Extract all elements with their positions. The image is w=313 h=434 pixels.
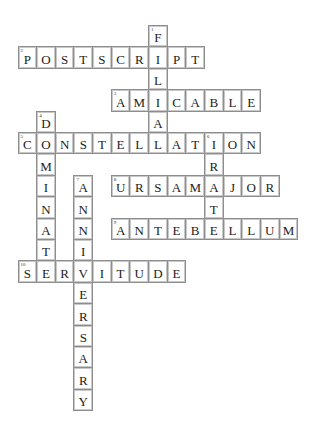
grid-cell[interactable]: 5C [18, 132, 38, 154]
grid-cell[interactable]: O [36, 132, 56, 154]
grid-cell[interactable]: L [129, 132, 149, 154]
grid-cell[interactable]: N [73, 196, 93, 218]
grid-cell[interactable]: O [223, 132, 243, 154]
grid-cell[interactable]: P [167, 46, 187, 68]
grid-cell[interactable]: 7A [73, 175, 93, 197]
grid-cell[interactable]: 2P [18, 46, 38, 68]
grid-cell[interactable]: M [129, 89, 149, 111]
grid-cell[interactable]: N [129, 218, 149, 240]
grid-cell[interactable]: R [129, 175, 149, 197]
cell-letter: L [149, 138, 167, 151]
grid-cell[interactable]: N [36, 196, 56, 218]
grid-cell[interactable]: L [241, 218, 261, 240]
cell-letter: D [37, 117, 55, 130]
cell-letter: S [56, 53, 74, 66]
grid-cell[interactable]: I [148, 46, 168, 68]
cell-letter: L [224, 224, 242, 237]
grid-cell[interactable]: U [260, 218, 280, 240]
grid-cell[interactable]: V [73, 260, 93, 282]
cell-letter: I [149, 53, 167, 66]
grid-cell[interactable]: Y [73, 389, 93, 411]
grid-cell[interactable]: S [148, 175, 168, 197]
cell-letter: A [74, 352, 92, 365]
grid-cell[interactable]: O [36, 46, 56, 68]
cell-letter: U [112, 181, 130, 194]
grid-cell[interactable]: T [111, 260, 131, 282]
grid-cell[interactable]: 10S [18, 260, 38, 282]
grid-cell[interactable]: I [92, 260, 112, 282]
grid-cell[interactable]: T [148, 218, 168, 240]
cell-letter: R [205, 160, 223, 173]
grid-cell[interactable]: A [36, 218, 56, 240]
grid-cell[interactable]: T [92, 132, 112, 154]
grid-cell[interactable]: M [185, 175, 205, 197]
cell-letter: S [19, 267, 37, 280]
grid-cell[interactable]: A [185, 89, 205, 111]
grid-cell[interactable]: U [129, 260, 149, 282]
grid-cell[interactable]: N [241, 132, 261, 154]
grid-cell[interactable]: E [167, 218, 187, 240]
cell-letter: U [261, 224, 279, 237]
grid-cell[interactable]: E [204, 218, 224, 240]
cell-letter: V [74, 267, 92, 280]
grid-cell[interactable]: R [260, 175, 280, 197]
cell-letter: A [168, 181, 186, 194]
grid-cell[interactable]: 9A [111, 218, 131, 240]
grid-cell[interactable]: I [36, 175, 56, 197]
grid-cell[interactable]: C [167, 89, 187, 111]
grid-cell[interactable]: N [73, 218, 93, 240]
grid-cell[interactable]: S [73, 132, 93, 154]
grid-cell[interactable]: M [36, 153, 56, 175]
grid-cell[interactable]: R [73, 367, 93, 389]
grid-cell[interactable]: J [223, 175, 243, 197]
cell-letter: A [168, 138, 186, 151]
grid-cell[interactable]: A [73, 346, 93, 368]
grid-cell[interactable]: M [279, 218, 299, 240]
cell-letter: S [74, 138, 92, 151]
grid-cell[interactable]: E [36, 260, 56, 282]
grid-cell[interactable]: T [185, 132, 205, 154]
grid-cell[interactable]: I [148, 89, 168, 111]
cell-letter: A [205, 181, 223, 194]
grid-cell[interactable]: 1F [148, 25, 168, 47]
grid-cell[interactable]: A [148, 111, 168, 133]
grid-cell[interactable]: E [167, 260, 187, 282]
grid-cell[interactable]: 8U [111, 175, 131, 197]
grid-cell[interactable]: A [204, 175, 224, 197]
grid-cell[interactable]: T [73, 46, 93, 68]
grid-cell[interactable]: T [204, 196, 224, 218]
grid-cell[interactable]: A [167, 132, 187, 154]
grid-cell[interactable]: T [36, 239, 56, 261]
grid-cell[interactable]: S [92, 46, 112, 68]
grid-cell[interactable]: E [111, 132, 131, 154]
grid-cell[interactable]: 3A [111, 89, 131, 111]
grid-cell[interactable]: L [223, 218, 243, 240]
grid-cell[interactable]: R [55, 260, 75, 282]
grid-cell[interactable]: I [73, 239, 93, 261]
grid-cell[interactable]: B [204, 89, 224, 111]
grid-cell[interactable]: S [73, 325, 93, 347]
grid-cell[interactable]: D [148, 260, 168, 282]
grid-cell[interactable]: E [73, 282, 93, 304]
grid-cell[interactable]: 6I [204, 132, 224, 154]
grid-cell[interactable]: T [185, 46, 205, 68]
cell-letter: M [280, 224, 298, 237]
grid-cell[interactable]: E [241, 89, 261, 111]
cell-letter: D [149, 267, 167, 280]
grid-cell[interactable]: A [167, 175, 187, 197]
grid-cell[interactable]: R [129, 46, 149, 68]
grid-cell[interactable]: C [111, 46, 131, 68]
grid-cell[interactable]: L [223, 89, 243, 111]
grid-cell[interactable]: L [148, 132, 168, 154]
cell-letter: B [186, 224, 204, 237]
grid-cell[interactable]: L [148, 68, 168, 90]
grid-cell[interactable]: R [204, 153, 224, 175]
grid-cell[interactable]: N [55, 132, 75, 154]
grid-cell[interactable]: B [185, 218, 205, 240]
grid-cell[interactable]: R [73, 303, 93, 325]
cell-letter: O [37, 53, 55, 66]
grid-cell[interactable]: O [241, 175, 261, 197]
grid-cell[interactable]: S [55, 46, 75, 68]
grid-cell[interactable]: 4D [36, 111, 56, 133]
cell-letter: N [37, 203, 55, 216]
